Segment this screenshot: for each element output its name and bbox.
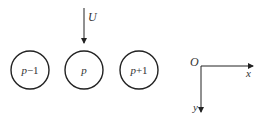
svg-text:p: p [80,64,87,76]
flow-arrow: U [84,8,98,43]
particle-p-minus-1: p−1 [11,51,49,89]
coordinate-axes: O x y [190,55,253,113]
particle-label-var: p [80,64,87,76]
svg-text:p+1: p+1 [129,64,147,76]
particle-label-suffix: +1 [136,64,148,76]
origin-label: O [190,55,199,69]
svg-text:p−1: p−1 [20,64,38,76]
particle-p: p [65,51,103,89]
diagram-canvas: U p−1 p p+1 O x y [0,0,262,120]
y-axis-label: y [192,101,198,113]
x-axis-label: x [245,67,251,79]
particle-p-plus-1: p+1 [120,51,158,89]
particle-label-suffix: −1 [27,64,39,76]
flow-label: U [88,10,98,24]
